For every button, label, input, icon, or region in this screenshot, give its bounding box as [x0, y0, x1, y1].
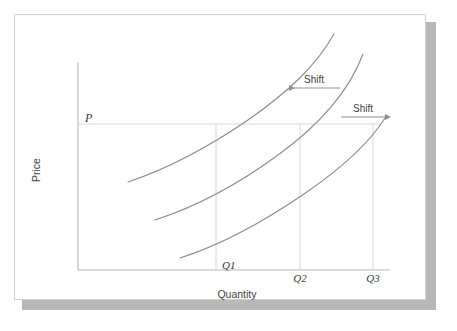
axes [78, 62, 390, 270]
quantity-label-q1: Q1 [222, 259, 235, 271]
shift-label-left: Shift [304, 74, 324, 85]
value-labels: P Q1 Q2 Q3 [84, 111, 380, 284]
x-axis-title: Quantity [217, 288, 257, 300]
supply-curve-shifted-left [128, 34, 334, 182]
price-level-label: P [84, 111, 93, 125]
shift-label-right: Shift [353, 103, 373, 114]
supply-shift-diagram: Shift Shift P Q1 Q2 Q3 Price Quantity [0, 0, 457, 331]
quantity-label-q3: Q3 [366, 272, 380, 284]
quantity-label-q2: Q2 [293, 272, 307, 284]
axis-titles: Price Quantity [30, 158, 257, 300]
shift-annotations: Shift Shift [289, 74, 386, 117]
guide-lines [78, 124, 380, 270]
y-axis-title: Price [30, 158, 42, 182]
diagram-canvas: Shift Shift P Q1 Q2 Q3 Price Quantity [0, 0, 457, 331]
figure-root: Shift Shift P Q1 Q2 Q3 Price Quantity [0, 0, 457, 331]
supply-curves [128, 34, 385, 258]
supply-curve-shifted-right [180, 118, 385, 258]
supply-curve-original [155, 54, 363, 220]
